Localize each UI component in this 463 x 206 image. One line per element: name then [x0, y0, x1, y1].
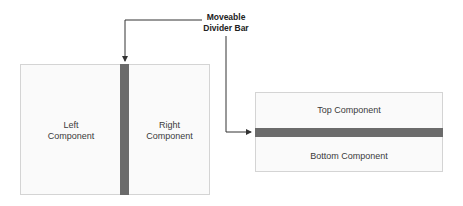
vertical-split-pane: Left Component Right Component [20, 64, 210, 195]
left-component: Left Component [21, 120, 121, 142]
left-component-label-2: Component [21, 131, 121, 142]
arrow-to-horizontal-divider [226, 36, 251, 132]
right-component-label-2: Component [129, 131, 210, 142]
right-component: Right Component [129, 120, 210, 142]
bottom-component: Bottom Component [256, 151, 442, 162]
vertical-divider-bar[interactable] [120, 64, 129, 195]
horizontal-divider-bar[interactable] [255, 128, 443, 137]
right-component-label-1: Right [129, 120, 210, 131]
top-component: Top Component [256, 105, 442, 116]
horizontal-split-pane: Top Component Bottom Component [255, 92, 443, 172]
left-component-label-1: Left [21, 120, 121, 131]
arrow-to-vertical-divider [125, 20, 202, 61]
